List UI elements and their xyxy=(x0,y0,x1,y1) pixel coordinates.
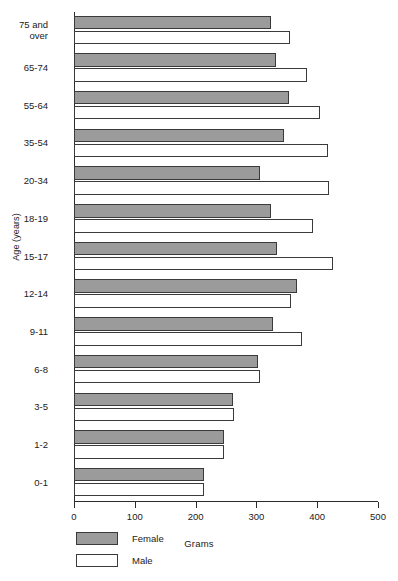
x-axis-tick-label: 0 xyxy=(54,511,94,522)
category-label: 20-34 xyxy=(0,175,48,186)
category-label: 55-64 xyxy=(0,100,48,111)
bar-male xyxy=(74,445,224,459)
category-label: 0-1 xyxy=(0,477,48,488)
x-axis-tick-label: 100 xyxy=(115,511,155,522)
category-label: 9-11 xyxy=(0,326,48,337)
bar-male xyxy=(74,332,302,346)
x-axis-line xyxy=(74,501,378,502)
bar-chart: Age (years) 75 and over65-7455-6435-5420… xyxy=(0,0,398,581)
x-axis-tick xyxy=(196,502,197,508)
bar-female xyxy=(74,204,271,218)
y-axis-title: Age (years) xyxy=(11,177,21,297)
category-label: 75 and over xyxy=(0,19,48,41)
legend-label: Male xyxy=(132,554,153,567)
bar-male xyxy=(74,31,290,45)
category-label: 1-2 xyxy=(0,439,48,450)
x-axis-tick xyxy=(135,502,136,508)
bar-female xyxy=(74,53,276,67)
bar-male xyxy=(74,219,313,233)
bar-male xyxy=(74,144,328,158)
x-axis-tick xyxy=(317,502,318,508)
plot-area: 75 and over65-7455-6435-5420-3418-1915-1… xyxy=(74,12,378,502)
bar-female xyxy=(74,393,233,407)
x-axis-tick xyxy=(378,502,379,508)
bar-male xyxy=(74,370,260,384)
category-label: 18-19 xyxy=(0,213,48,224)
bar-male xyxy=(74,181,329,195)
bar-male xyxy=(74,408,234,422)
bar-female xyxy=(74,242,277,256)
category-label: 3-5 xyxy=(0,401,48,412)
category-label: 65-74 xyxy=(0,62,48,73)
bar-male xyxy=(74,257,333,271)
x-axis-tick-label: 300 xyxy=(236,511,276,522)
bar-female xyxy=(74,317,273,331)
x-axis-title: Grams xyxy=(0,538,398,549)
x-axis-tick xyxy=(74,502,75,508)
category-label: 12-14 xyxy=(0,288,48,299)
bar-female xyxy=(74,166,260,180)
bar-male xyxy=(74,106,320,120)
x-axis-tick-label: 500 xyxy=(358,511,398,522)
bar-male xyxy=(74,294,291,308)
bar-male xyxy=(74,483,204,497)
bar-female xyxy=(74,129,284,143)
bar-male xyxy=(74,68,307,82)
category-label: 15-17 xyxy=(0,251,48,262)
bar-female xyxy=(74,279,297,293)
legend-swatch-female xyxy=(76,532,118,545)
legend-swatch-male xyxy=(76,554,118,567)
x-axis-tick-label: 200 xyxy=(176,511,216,522)
bar-female xyxy=(74,468,204,482)
legend-label: Female xyxy=(132,532,164,545)
bar-female xyxy=(74,430,224,444)
category-label: 6-8 xyxy=(0,364,48,375)
x-axis-tick-label: 400 xyxy=(297,511,337,522)
bar-female xyxy=(74,355,258,369)
category-label: 35-54 xyxy=(0,137,48,148)
bar-female xyxy=(74,91,289,105)
bar-female xyxy=(74,16,271,30)
x-axis-tick xyxy=(256,502,257,508)
